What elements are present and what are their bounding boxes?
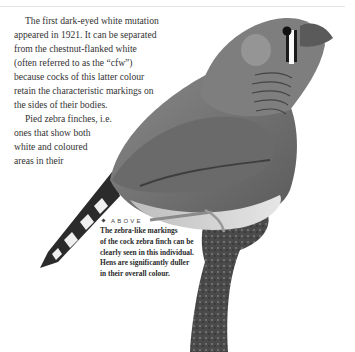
diamond-bullet-icon [101,218,105,222]
caption-line: in their overall colour. [100,269,230,280]
text-line: the sides of their bodies. [14,98,184,112]
text-line: from the chestnut-flanked white [14,42,184,56]
paragraph-1-rest: appeared in 1921. It can be separated fr… [14,28,184,112]
text-line: The first dark-eyed white mutation [14,14,184,28]
text-line: retain the characteristic markings on [14,84,184,98]
text-line: appeared in 1921. It can be separated [14,28,184,42]
text-line: white and coloured [14,140,184,154]
caption-line: clearly seen in this individual. [100,248,230,259]
text-line: (often referred to as the “cfw”) [14,56,184,70]
text-line: because cocks of this latter colour [14,70,184,84]
caption-line: of the cock zebra finch can be [100,237,230,248]
text-line: ones that show both [14,126,184,140]
text-line: areas in their [14,154,184,168]
caption-label: ABOVE [100,218,230,224]
paragraph-2: Pied zebra finches, i.e. [14,112,184,126]
body-text: The first dark-eyed white mutation appea… [14,14,184,168]
caption-text: The zebra-like markings of the cock zebr… [100,226,230,280]
caption-label-text: ABOVE [111,218,143,224]
caption-line: Hens are significantly duller [100,258,230,269]
photo-caption: ABOVE The zebra-like markings of the coc… [100,218,230,280]
paragraph-1: The first dark-eyed white mutation [14,14,184,28]
text-line: Pied zebra finches, i.e. [14,112,184,126]
caption-line: The zebra-like markings [100,226,230,237]
paragraph-2-rest: ones that show both white and coloured a… [14,126,184,168]
